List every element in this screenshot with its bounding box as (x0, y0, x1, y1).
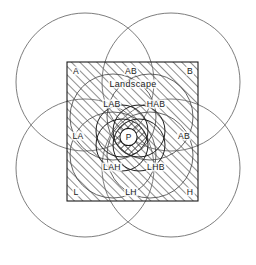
label-inner-bottom-right: LHB (146, 163, 166, 172)
label-corner-top-right: B (186, 67, 194, 76)
label-inner-top-left: LAB (102, 100, 121, 109)
label-landscape-title: Landscape (108, 80, 157, 89)
label-inner-bottom-left: LAH (102, 163, 122, 172)
label-center-p: P (126, 133, 132, 142)
label-edge-top: AB (124, 67, 138, 76)
label-corner-bottom-left: L (72, 188, 79, 197)
label-edge-left: LA (71, 132, 84, 141)
label-corner-top-left: A (72, 67, 80, 76)
label-corner-bottom-right: H (186, 188, 195, 197)
label-inner-top-right: HAB (146, 100, 167, 109)
diagram-canvas: A AB B Landscape LAB HAB LA AB P LAH LHB… (0, 0, 256, 265)
label-edge-right: AB (177, 132, 191, 141)
label-edge-bottom: LH (124, 188, 138, 197)
